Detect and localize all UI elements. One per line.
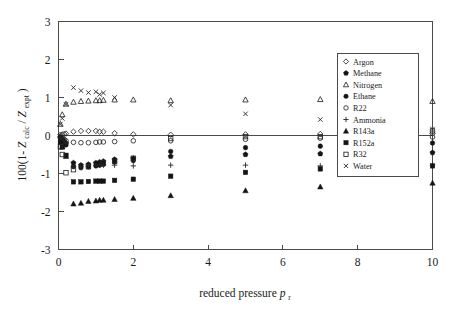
data-point [112,178,116,182]
data-point [131,139,136,144]
x-tick-labels: 0246810 [56,256,439,268]
data-point [168,98,173,103]
y-axis-label-sub-calc: calc [22,126,31,139]
data-point [318,97,323,102]
data-point [243,145,248,150]
data-point [101,197,106,202]
legend-label: Ammonia [353,116,386,125]
data-point [78,98,83,103]
data-point [318,117,322,121]
data-point [71,201,76,206]
data-point [112,139,117,144]
y-tick-labels: 3210-1-2-3 [41,16,51,256]
data-point [430,164,434,168]
y-axis-label-z-calc: Z [16,141,28,148]
data-point [79,88,83,92]
data-point [168,193,173,198]
legend: ArgonMethaneNitrogenEthaneR22AmmoniaR143… [337,54,418,177]
data-point [64,171,68,175]
data-point [131,177,135,181]
y-tick-label: 2 [45,54,51,66]
data-point [86,198,91,203]
legend-label: R143a [353,127,375,136]
data-point [168,103,172,107]
svg-text:100(1- Z calc: 100(1- Z calc / Z expt ) [16,88,31,181]
scatter-plot: 0246810 3210-1-2-3 reduced pressure p r … [0,0,456,311]
data-point [71,99,76,104]
x-axis-label-symbol: p [279,287,286,300]
data-point [243,97,248,102]
y-axis-label-z-expt: Z [16,111,28,118]
data-point [58,140,62,144]
data-point [101,91,105,95]
legend-marker-filled-circle [344,94,348,98]
data-point [168,154,173,159]
legend-marker-filled-square [344,141,348,145]
svg-text:reduced pressure: reduced pressure p r [199,287,291,302]
data-point [168,162,173,167]
y-tick-label: 3 [45,16,51,28]
data-point [318,144,323,149]
x-tick-label: 8 [355,256,361,268]
legend-label: Nitrogen [353,81,382,90]
y-axis-label: 100(1- Z calc / Z expt ) [16,88,31,181]
y-axis-label-suffix: ) [16,88,29,92]
data-point [71,140,76,145]
data-point [318,151,323,156]
data-point [318,167,322,171]
legend-label: R22 [353,104,367,113]
y-axis-label-sub-expt: expt [22,94,31,108]
data-point [243,188,248,193]
data-point [101,129,106,134]
data-point [318,184,323,189]
legend-label: Methane [353,69,382,78]
legend-label: Argon [353,58,374,67]
figure-container: 0246810 3210-1-2-3 reduced pressure p r … [0,0,456,311]
data-point [79,180,83,184]
data-point [131,97,136,102]
legend-label: Water [353,162,373,171]
data-point [71,180,75,184]
data-point [94,90,98,94]
data-point [430,150,435,155]
legend-label: R152a [353,139,375,148]
y-axis-label-prefix: 100(1- [16,151,29,182]
data-point [79,140,84,145]
x-tick-label: 4 [205,256,211,268]
data-point [131,195,136,200]
data-point [101,97,106,102]
x-axis-label-subscript: r [288,293,291,302]
data-point [243,112,247,116]
data-point [71,129,76,134]
legend-label: Ethane [353,92,376,101]
y-axis-label-slash: / [16,120,28,124]
data-point [112,95,116,99]
data-point [86,90,90,94]
data-point [131,163,136,168]
data-point [430,180,435,185]
data-point [86,179,90,183]
x-tick-label: 2 [130,256,136,268]
y-tick-label: 1 [45,92,51,104]
data-point [243,152,248,157]
data-point [243,170,247,174]
data-point [78,200,83,205]
data-point [112,197,117,202]
data-point [78,128,83,133]
data-point [243,162,248,167]
data-point [97,92,101,96]
data-point [86,98,91,103]
data-point [168,149,173,154]
y-tick-label: -3 [41,244,51,256]
data-point [101,179,105,183]
y-tick-label: -2 [41,206,51,218]
data-point [71,85,75,89]
y-tick-label: 0 [45,130,51,142]
data-point [243,137,248,142]
data-point [86,140,91,145]
x-axis-label: reduced pressure p r [199,287,291,302]
y-tick-label: -1 [41,168,51,180]
x-tick-label: 0 [56,256,62,268]
x-tick-label: 6 [280,256,286,268]
data-point [131,132,136,137]
